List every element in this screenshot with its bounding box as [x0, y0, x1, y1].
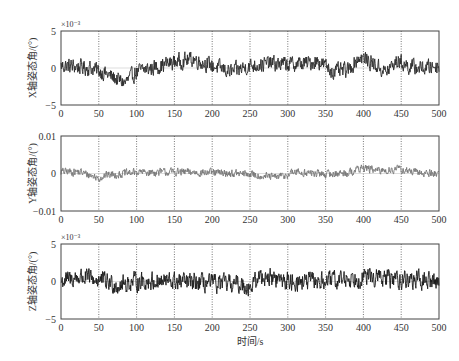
x-tick-label: 100 [129, 214, 144, 225]
x-tick-label: 350 [318, 214, 333, 225]
y-axis-label: X轴姿态角/(°) [26, 38, 39, 99]
x-tick-label: 250 [243, 108, 258, 119]
panel-y-axis: 0501001502002503003504004505000.010−0.01… [26, 131, 447, 226]
y-tick-label: 5 [51, 26, 56, 37]
x-tick-label: 50 [94, 214, 104, 225]
y-tick-label: 0 [51, 168, 56, 179]
y-tick-label: 5 [51, 239, 56, 250]
x-tick-label: 0 [59, 322, 64, 333]
x-tick-label: 450 [394, 322, 409, 333]
x-tick-label: 300 [280, 108, 295, 119]
x-tick-label: 500 [432, 322, 447, 333]
y-tick-label: 0 [51, 276, 56, 287]
y-tick-label: 0 [51, 63, 56, 74]
y-tick-label: 0.01 [39, 131, 57, 142]
y-tick-label: −0.01 [33, 206, 56, 217]
y-tick-label: −5 [45, 314, 56, 325]
panel-x-axis: 05010015020025030035040045050050−5×10⁻³X… [26, 20, 447, 119]
y-exponent-label: ×10⁻³ [61, 233, 81, 242]
x-tick-label: 500 [432, 108, 447, 119]
y-axis-label: Z轴姿态角/(°) [26, 252, 39, 312]
panel-z-axis: 05010015020025030035040045050050−5×10⁻³Z… [26, 233, 447, 347]
y-axis-label: Y轴姿态角/(°) [26, 143, 39, 204]
x-tick-label: 450 [394, 108, 409, 119]
x-axis-label: 时间/s [237, 335, 264, 347]
attitude-angle-chart: 05010015020025030035040045050050−5×10⁻³X… [0, 0, 459, 361]
y-tick-label: −5 [45, 100, 56, 111]
x-tick-label: 100 [129, 322, 144, 333]
x-tick-label: 50 [94, 108, 104, 119]
x-tick-label: 200 [205, 214, 220, 225]
x-tick-label: 100 [129, 108, 144, 119]
x-tick-label: 50 [94, 322, 104, 333]
x-tick-label: 150 [167, 108, 182, 119]
x-tick-label: 350 [318, 322, 333, 333]
x-tick-label: 500 [432, 214, 447, 225]
x-tick-label: 400 [356, 214, 371, 225]
x-tick-label: 200 [205, 322, 220, 333]
x-tick-label: 400 [356, 108, 371, 119]
x-tick-label: 250 [243, 214, 258, 225]
x-tick-label: 150 [167, 322, 182, 333]
x-tick-label: 0 [59, 214, 64, 225]
x-tick-label: 150 [167, 214, 182, 225]
x-tick-label: 300 [280, 322, 295, 333]
x-tick-label: 250 [243, 322, 258, 333]
x-tick-label: 400 [356, 322, 371, 333]
x-tick-label: 450 [394, 214, 409, 225]
x-tick-label: 0 [59, 108, 64, 119]
x-tick-label: 350 [318, 108, 333, 119]
x-tick-label: 300 [280, 214, 295, 225]
y-exponent-label: ×10⁻³ [61, 20, 81, 29]
x-tick-label: 200 [205, 108, 220, 119]
